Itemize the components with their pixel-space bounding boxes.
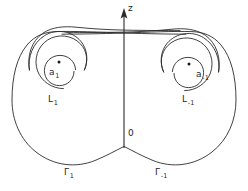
diagram-canvas (0, 0, 248, 191)
loop-L-minus-1-label: L-1 (182, 95, 194, 106)
contour-gamma-minus-1-label: Γ-1 (155, 168, 167, 179)
loop-L-1-subscript: 1 (53, 99, 58, 107)
contour-gamma-1-label: Γ1 (64, 168, 74, 179)
pole-a-minus-1-subscript: -1 (202, 74, 209, 82)
pole-a-1-dot (58, 61, 61, 64)
loop-L-minus-1-outer-path (161, 38, 212, 91)
pole-a-1-label: a1 (49, 68, 59, 79)
loop-L-1-label: L1 (48, 95, 58, 106)
contour-gamma-1-subscript: 1 (69, 172, 74, 180)
contour-gamma-minus-1-path (62, 31, 236, 164)
origin-label: 0 (128, 129, 134, 138)
pole-a-minus-1-label: a-1 (196, 70, 209, 81)
contour-diagram-figure: z 0 a1 a-1 L1 L-1 Γ1 Γ-1 (0, 0, 248, 191)
loop-L-minus-1-subscript: -1 (187, 99, 194, 107)
contour-gamma-minus-1-subscript: -1 (160, 172, 167, 180)
pole-a-1-subscript: 1 (55, 72, 60, 80)
loop-L-minus-1-tail-path (68, 29, 219, 72)
z-axis-label: z (128, 4, 133, 13)
loop-L-1-outer-path (36, 36, 87, 89)
pole-a-minus-1-dot (188, 63, 191, 66)
z-axis-group (121, 8, 128, 148)
